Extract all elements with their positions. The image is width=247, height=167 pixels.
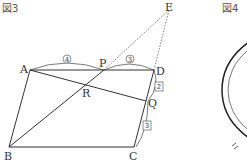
label-a: A [19,63,29,76]
ratio-dq: 2 [157,83,161,91]
ratio-qc: 3 [145,122,149,130]
label-b: B [4,150,12,163]
parallelogram [9,70,154,147]
label-r: R [82,87,91,100]
figure-4-rings [222,30,247,150]
figure-3-title: 図3 [2,3,18,14]
figure-4-title: 図4 [222,3,238,14]
label-p: P [99,57,107,70]
ratio-ap: 4 [65,56,70,64]
segment-bp [9,70,104,147]
label-c: C [129,150,137,163]
label-d: D [156,65,165,78]
label-q: Q [148,97,157,110]
arrow-icon [232,143,238,149]
dotted-extensions [104,10,169,70]
ratio-pd: 3 [128,56,132,64]
diagram-canvas: 図3 図4 4 3 2 3 A B C D E P Q R [0,0,247,167]
label-e: E [165,1,173,14]
